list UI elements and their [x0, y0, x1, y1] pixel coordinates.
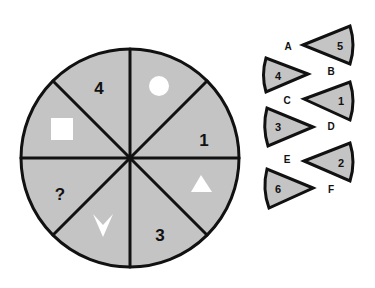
option-b[interactable]: 5 B	[303, 26, 353, 77]
answer-options: A 4 5 B C 1 3 D E 2	[264, 26, 354, 208]
segment-bottom-right-number: 3	[155, 226, 164, 245]
option-f-number: 6	[275, 183, 281, 195]
option-f-letter: F	[328, 184, 334, 195]
option-f[interactable]: 6 F	[265, 169, 334, 208]
option-c-wedge-icon	[304, 82, 353, 120]
option-b-number: 5	[337, 40, 343, 52]
option-f-wedge-icon	[265, 169, 313, 208]
option-a[interactable]: A 4	[264, 41, 309, 92]
option-e-letter: E	[284, 154, 291, 165]
segment-top-left-number: 4	[94, 79, 104, 98]
segment-left-lower-question-mark: ?	[55, 185, 65, 204]
puzzle-figure: 1 3 ? 4 A 4 5 B C 1 3	[0, 0, 375, 288]
segment-right-upper-number: 1	[199, 131, 208, 150]
option-c[interactable]: C 1	[283, 82, 353, 120]
option-e-wedge-icon	[304, 143, 353, 181]
segment-top-right-circle-icon	[149, 76, 169, 96]
option-c-number: 1	[338, 95, 344, 107]
option-d-wedge-icon	[265, 108, 313, 146]
option-b-letter: B	[327, 66, 334, 77]
option-a-letter: A	[284, 41, 291, 52]
option-e[interactable]: E 2	[284, 143, 353, 181]
option-a-wedge-icon	[264, 58, 309, 92]
segment-left-upper-square-icon	[51, 118, 73, 140]
option-d-number: 3	[275, 121, 281, 133]
option-a-number: 4	[275, 70, 282, 82]
wheel: 1 3 ? 4	[21, 49, 239, 267]
option-b-wedge-icon	[303, 26, 353, 64]
option-e-number: 2	[338, 157, 344, 169]
wheel-hub	[127, 155, 134, 162]
option-c-letter: C	[283, 95, 290, 106]
option-d[interactable]: 3 D	[265, 108, 335, 146]
option-d-letter: D	[327, 121, 334, 132]
